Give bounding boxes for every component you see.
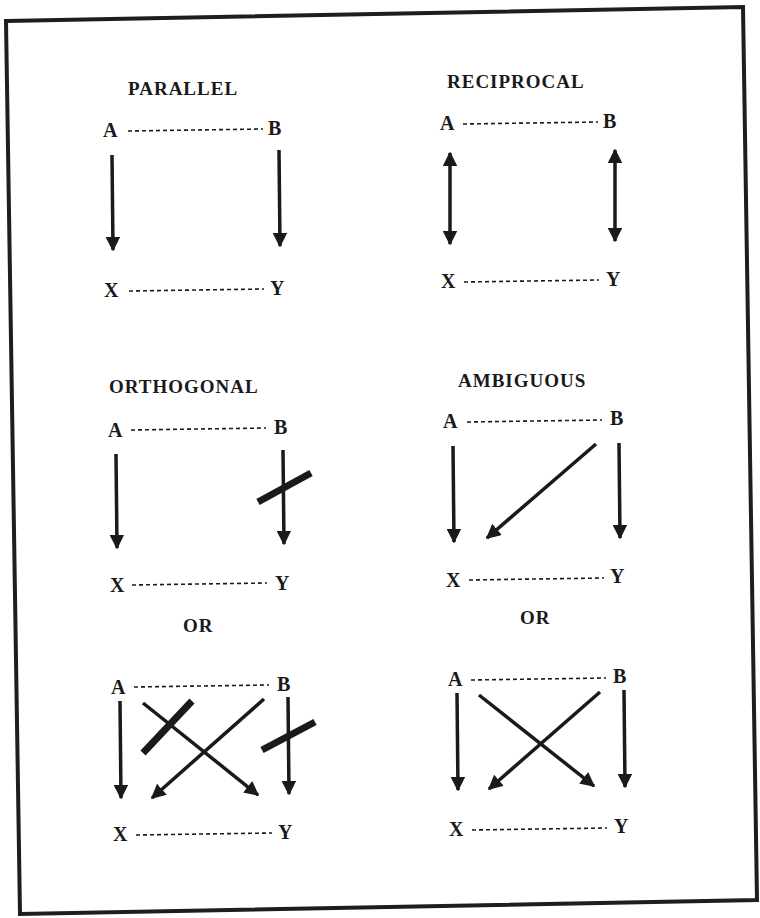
a-b-link <box>128 129 263 131</box>
arrow-a-to-y <box>143 703 258 795</box>
relationship-types-diagram: PARALLEL A B X Y RECIPROCAL A B X Y ORTH… <box>0 0 760 918</box>
arrow-b-to-x <box>152 699 264 798</box>
node-a: A <box>440 112 455 134</box>
node-a: A <box>103 119 118 141</box>
panel-ambiguous-alternative: A B X Y <box>448 665 629 840</box>
node-b: B <box>277 673 290 695</box>
node-a: A <box>111 676 126 698</box>
x-y-link <box>464 280 599 282</box>
node-b: B <box>613 665 626 687</box>
node-a: A <box>108 419 123 441</box>
arrow-b-to-x <box>489 692 600 789</box>
arrow-a-to-y <box>479 695 594 786</box>
node-b: B <box>610 407 623 429</box>
panel-reciprocal: RECIPROCAL A B X Y <box>440 71 621 292</box>
arrow-b-to-y <box>624 690 625 787</box>
node-x: X <box>449 818 464 840</box>
arrow-b-to-y <box>279 150 280 246</box>
node-x: X <box>446 569 461 591</box>
panel-orthogonal-alternative: A B X Y <box>111 673 315 845</box>
arrow-a-to-x <box>116 454 117 548</box>
x-y-link <box>129 289 264 291</box>
panel-parallel: PARALLEL A B X Y <box>103 78 285 301</box>
arrow-a-to-x <box>112 155 113 250</box>
panel-title: PARALLEL <box>128 78 238 99</box>
panel-title: RECIPROCAL <box>447 71 585 92</box>
node-x: X <box>113 823 128 845</box>
arrow-b-to-x <box>487 444 596 538</box>
arrow-b-to-y <box>619 443 620 538</box>
node-y: Y <box>614 815 629 837</box>
panel-ambiguous: AMBIGUOUS A B X Y OR <box>443 370 625 628</box>
node-x: X <box>441 270 456 292</box>
arrow-a-to-x <box>453 446 454 542</box>
arrow-b-to-y <box>283 450 284 544</box>
panel-title: ORTHOGONAL <box>109 376 259 397</box>
node-y: Y <box>275 572 290 594</box>
node-b: B <box>268 117 281 139</box>
node-b: B <box>274 416 287 438</box>
a-b-link <box>463 122 598 124</box>
node-y: Y <box>278 821 293 843</box>
arrow-b-to-y <box>288 697 289 794</box>
or-label: OR <box>520 607 551 628</box>
node-a: A <box>443 410 458 432</box>
node-y: Y <box>606 268 621 290</box>
x-y-link <box>472 828 607 830</box>
node-y: Y <box>270 277 285 299</box>
node-x: X <box>110 574 125 596</box>
or-label: OR <box>183 615 214 636</box>
x-y-link <box>136 833 272 835</box>
x-y-link <box>469 578 604 580</box>
panel-orthogonal: ORTHOGONAL A B X Y OR <box>108 376 311 636</box>
node-y: Y <box>610 565 625 587</box>
a-b-link <box>134 685 269 687</box>
x-y-link <box>132 583 267 585</box>
arrow-a-to-x <box>457 693 458 790</box>
a-b-link <box>467 420 602 422</box>
figure-frame <box>6 7 757 914</box>
a-b-link <box>471 678 606 680</box>
a-b-link <box>131 428 266 430</box>
node-a: A <box>448 668 463 690</box>
node-x: X <box>104 279 119 301</box>
arrow-a-to-x <box>120 701 121 798</box>
panel-title: AMBIGUOUS <box>458 370 586 391</box>
node-b: B <box>603 110 616 132</box>
